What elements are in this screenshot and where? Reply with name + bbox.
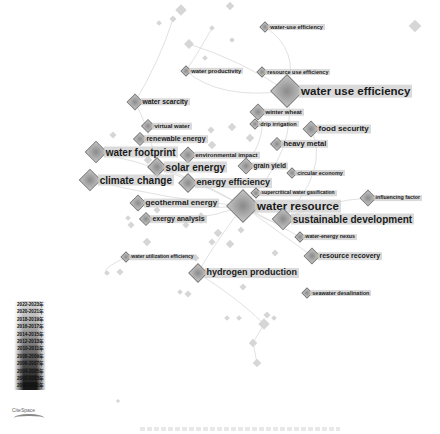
keyword-label[interactable]: food security <box>317 125 371 134</box>
keyword-label[interactable]: drip irrigation <box>258 121 298 127</box>
keyword-label[interactable]: resource use efficiency <box>265 69 330 75</box>
keyword-label[interactable]: circular economy <box>295 170 345 176</box>
legend-item: 2000-2001年 <box>14 382 46 389</box>
keyword-label[interactable]: geothermal energy <box>144 199 220 208</box>
keyword-label[interactable]: water scarcity <box>141 98 190 105</box>
legend-item: 2018-2019年 <box>14 316 46 323</box>
legend-item: 2006-2007年 <box>14 360 46 367</box>
legend-item: 2004-2005年 <box>14 368 46 375</box>
keyword-label[interactable]: seawater desalination <box>310 290 371 296</box>
keyword-label[interactable]: water resource <box>255 200 341 213</box>
keyword-label[interactable]: energy efficiency <box>195 178 273 188</box>
keyword-label[interactable]: water footprint <box>104 147 178 158</box>
legend-item: 2008-2009年 <box>14 353 46 360</box>
keyword-label[interactable]: climate change <box>98 175 174 186</box>
legend-item: 2014-2015年 <box>14 331 46 338</box>
time-slice-legend: 2022-2023年2020-2021年2018-2019年2016-2017年… <box>14 301 46 390</box>
keyword-label[interactable]: virtual water <box>152 123 191 130</box>
network-canvas: water-use efficiencywater productivityre… <box>0 0 440 434</box>
legend-item: 2012-2013年 <box>14 338 46 345</box>
keyword-label[interactable]: heavy metal <box>281 140 328 148</box>
keyword-label[interactable]: resource recovery <box>318 252 383 260</box>
keyword-label[interactable]: supercritical water gasification <box>259 190 336 196</box>
keyword-label[interactable]: water-energy nexus <box>303 234 357 240</box>
keyword-label[interactable]: water-use efficiency <box>268 24 325 30</box>
keyword-label[interactable]: environmental impact <box>194 152 260 159</box>
citespace-logo: CiteSpace <box>12 407 35 413</box>
keyword-label[interactable]: water use efficiency <box>299 85 412 98</box>
keyword-label[interactable]: renewable energy <box>144 135 207 143</box>
legend-item: 2020-2021年 <box>14 308 46 315</box>
keyword-label[interactable]: solar energy <box>164 162 227 173</box>
figure-caption-faint <box>140 427 340 431</box>
legend-item: 2002-2003年 <box>14 375 46 382</box>
legend-item: 2010-2011年 <box>14 345 46 352</box>
keyword-label[interactable]: water utilization efficiency <box>129 254 195 260</box>
legend-item: 2022-2023年 <box>14 301 46 308</box>
keyword-label[interactable]: sustainable development <box>291 214 414 225</box>
keyword-label[interactable]: influencing factor <box>374 195 422 201</box>
keyword-label[interactable]: hydrogen production <box>205 268 300 278</box>
legend-item: 2016-2017年 <box>14 323 46 330</box>
keyword-label[interactable]: water productivity <box>189 68 243 74</box>
keyword-label[interactable]: grain yield <box>252 162 289 169</box>
citespace-logo-swoosh <box>14 414 44 422</box>
keyword-label[interactable]: exergy analysis <box>150 215 206 223</box>
keyword-label[interactable]: winter wheat <box>264 109 304 116</box>
